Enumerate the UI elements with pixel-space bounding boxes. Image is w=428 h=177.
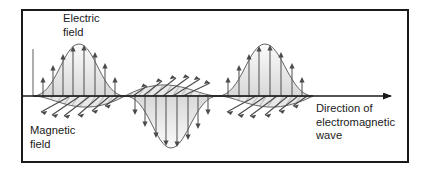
electromagnetic-wave-figure: Electric field Magnetic field Direction … (0, 0, 428, 177)
em-wave-diagram: Electric field Magnetic field Direction … (0, 0, 428, 177)
